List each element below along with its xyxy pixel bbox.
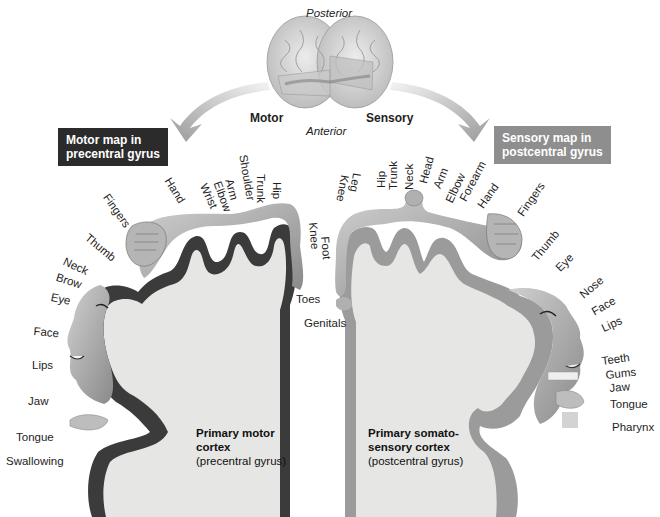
- motor-label-face: Face: [33, 326, 59, 340]
- motor-cortex-caption: Primary motor cortex (precentral gyrus): [196, 426, 286, 468]
- sensory-caption-sub: (postcentral gyrus): [368, 454, 463, 468]
- motor-label-lips: Lips: [32, 360, 53, 372]
- sensory-map-title-line2: postcentral gyrus: [502, 145, 603, 159]
- motor-label-tongue: Tongue: [16, 432, 54, 444]
- brain-top-view-icon: [267, 16, 393, 108]
- motor-caption-sub: (precentral gyrus): [196, 454, 286, 468]
- anterior-label: Anterior: [306, 126, 346, 138]
- sensory-label-genitals: Genitals: [304, 318, 346, 330]
- sensory-label-hip: Hip: [376, 171, 388, 188]
- sensory-cortex-caption: Primary somato- sensory cortex (postcent…: [368, 426, 463, 468]
- motor-map-title-line1: Motor map in: [66, 133, 160, 147]
- motor-label-hip: Hip: [271, 182, 283, 199]
- motor-arrow-label: Motor: [250, 112, 283, 124]
- motor-map-title-line2: precentral gyrus: [66, 147, 160, 161]
- sensory-cortex-slice: [339, 227, 553, 517]
- motor-label-jaw: Jaw: [28, 396, 48, 408]
- sensory-label-pharynx: Pharynx: [612, 422, 654, 434]
- motor-label-toes: Toes: [296, 294, 320, 306]
- motor-label-swallowing: Swallowing: [6, 456, 64, 468]
- sensory-label-neck: Neck: [404, 164, 416, 190]
- sensory-caption-line2: sensory cortex: [368, 441, 450, 453]
- motor-caption-line1: Primary motor: [196, 427, 275, 439]
- sensory-map-title-line1: Sensory map in: [502, 131, 603, 145]
- motor-label-knee: Knee: [307, 222, 321, 250]
- motor-homunculus-face-icon: [67, 285, 113, 430]
- sensory-arrow-label: Sensory: [366, 112, 413, 124]
- sensory-label-tongue: Tongue: [610, 399, 648, 411]
- motor-map-box: Motor map in precentral gyrus: [58, 128, 168, 166]
- posterior-label: Posterior: [306, 8, 352, 20]
- motor-label-foot: Foot: [319, 236, 332, 260]
- motor-cortex-slice: [88, 224, 298, 517]
- sensory-label-trunk: Trunk: [388, 161, 400, 190]
- sensory-label-leg: Leg: [347, 172, 362, 193]
- sensory-label-jaw: Jaw: [609, 381, 630, 394]
- sensory-caption-line1: Primary somato-: [368, 427, 459, 439]
- motor-caption-line2: cortex: [196, 441, 231, 453]
- sensory-map-box: Sensory map in postcentral gyrus: [494, 126, 611, 164]
